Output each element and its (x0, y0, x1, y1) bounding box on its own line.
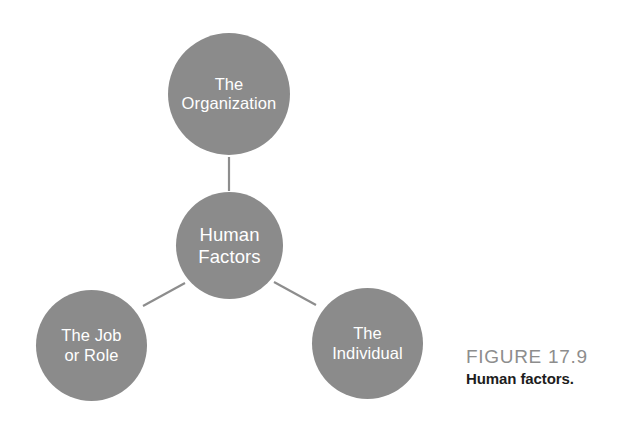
node-the-individual-label: The Individual (328, 324, 407, 363)
node-the-job-or-role: The Job or Role (36, 290, 147, 401)
node-the-organization: The Organization (168, 33, 290, 155)
figure-caption: FIGURE 17.9 Human factors. (466, 345, 634, 389)
node-the-job-or-role-label: The Job or Role (57, 326, 125, 365)
figure-caption-title: Human factors. (466, 369, 634, 389)
figure-caption-number: FIGURE 17.9 (466, 345, 634, 368)
connector-center-to-individual (274, 282, 316, 305)
node-human-factors-label: Human Factors (194, 224, 264, 268)
figure-container: The Organization Human Factors The Job o… (0, 0, 640, 432)
node-human-factors: Human Factors (176, 192, 283, 299)
connector-center-to-job-role (143, 283, 185, 306)
node-the-individual: The Individual (312, 288, 423, 399)
node-the-organization-label: The Organization (178, 75, 281, 114)
